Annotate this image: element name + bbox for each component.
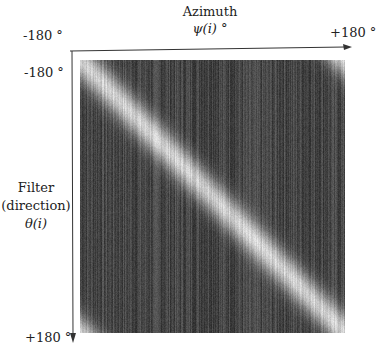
heatmap bbox=[80, 60, 345, 333]
